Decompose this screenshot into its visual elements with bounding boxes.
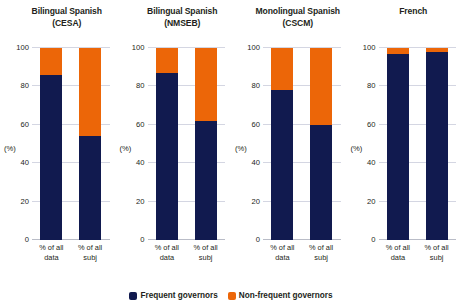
x-axis-labels: % of alldata% of allsubj — [32, 243, 110, 263]
y-axis-tick-label: 40 — [21, 158, 29, 167]
y-axis-tick-label: 100 — [132, 43, 145, 52]
x-axis-tick-label-line1: % of all — [39, 243, 63, 252]
stacked-bar-chart-figure: Bilingual Spanish(CESA)(%)020406080100% … — [0, 0, 462, 308]
legend-item[interactable]: Frequent governors — [129, 291, 217, 300]
x-axis-tick-label-line2: subj — [417, 253, 456, 263]
legend-label: Non-frequent governors — [239, 291, 333, 300]
panel-title-line1: Monolingual Spanish — [255, 6, 340, 16]
bar-segment-non-frequent[interactable] — [310, 48, 332, 125]
chart-panel: Bilingual Spanish(CESA)(%)020406080100% … — [0, 0, 116, 280]
stacked-bar[interactable] — [40, 48, 62, 240]
y-axis-tick-label: 0 — [25, 235, 29, 244]
y-axis-tick-label: 20 — [21, 196, 29, 205]
y-axis-tick-label: 0 — [256, 235, 260, 244]
x-axis-tick-label-line1: % of all — [155, 243, 179, 252]
stacked-bar[interactable] — [195, 48, 217, 240]
bar-segment-non-frequent[interactable] — [40, 48, 62, 75]
x-axis-tick-label: % of allsubj — [417, 243, 456, 263]
x-axis-tick-label-line2: subj — [71, 253, 110, 263]
bar-segment-frequent[interactable] — [387, 54, 409, 240]
panel-title-line1: Bilingual Spanish — [147, 6, 217, 16]
bar-segment-frequent[interactable] — [156, 73, 178, 240]
stacked-bar[interactable] — [271, 48, 293, 240]
x-axis-tick-label-line1: % of all — [386, 243, 410, 252]
bar-segment-non-frequent[interactable] — [156, 48, 178, 73]
bar-group — [32, 48, 110, 240]
panel-title-line1: Bilingual Spanish — [32, 6, 102, 16]
x-axis-tick-label-line1: % of all — [309, 243, 333, 252]
y-axis-tick-label: 40 — [367, 158, 375, 167]
panel-title-line1: French — [399, 6, 427, 16]
panel-title: Bilingual Spanish(NMSEB) — [116, 6, 232, 29]
panel-title-line2: (NMSEB) — [134, 18, 232, 30]
x-axis-labels: % of alldata% of allsubj — [263, 243, 341, 263]
plot-area: 020406080100 — [263, 48, 341, 240]
legend-swatch-icon — [228, 292, 236, 300]
x-axis-tick-label: % of alldata — [379, 243, 418, 263]
bar-segment-frequent[interactable] — [426, 52, 448, 240]
stacked-bar[interactable] — [426, 48, 448, 240]
bar-group — [148, 48, 226, 240]
y-axis-tick-label: 100 — [363, 43, 376, 52]
panel-title: Bilingual Spanish(CESA) — [0, 6, 116, 29]
y-axis-tick-label: 80 — [136, 81, 144, 90]
x-axis-tick-label-line2: subj — [186, 253, 225, 263]
y-axis-tick-label: 20 — [367, 196, 375, 205]
legend-item[interactable]: Non-frequent governors — [228, 291, 333, 300]
x-axis-tick-label: % of alldata — [32, 243, 71, 263]
bar-segment-non-frequent[interactable] — [271, 48, 293, 90]
panel-title: Monolingual Spanish(CSCM) — [231, 6, 347, 29]
x-axis-tick-label-line1: % of all — [425, 243, 449, 252]
stacked-bar[interactable] — [310, 48, 332, 240]
stacked-bar[interactable] — [79, 48, 101, 240]
y-axis-tick-label: 80 — [252, 81, 260, 90]
x-axis-tick-label: % of allsubj — [186, 243, 225, 263]
y-axis-label: (%) — [235, 144, 247, 153]
panel-title: French — [347, 6, 462, 18]
panel-row: Bilingual Spanish(CESA)(%)020406080100% … — [0, 0, 462, 280]
plot-area: 020406080100 — [379, 48, 457, 240]
x-axis-tick-label: % of alldata — [263, 243, 302, 263]
chart-panel: Monolingual Spanish(CSCM)(%)020406080100… — [231, 0, 347, 280]
y-axis-tick-label: 100 — [16, 43, 29, 52]
x-axis-tick-label-line2: subj — [302, 253, 341, 263]
x-axis-labels: % of alldata% of allsubj — [379, 243, 457, 263]
y-axis-tick-label: 0 — [140, 235, 144, 244]
y-axis-tick-label: 0 — [371, 235, 375, 244]
plot-area: 020406080100 — [32, 48, 110, 240]
y-axis-label: (%) — [120, 144, 132, 153]
x-axis-tick-label-line2: data — [148, 253, 187, 263]
bar-segment-frequent[interactable] — [79, 136, 101, 240]
bar-segment-frequent[interactable] — [310, 125, 332, 240]
y-axis-tick-label: 40 — [252, 158, 260, 167]
x-axis-tick-label-line2: data — [32, 253, 71, 263]
x-axis-labels: % of alldata% of allsubj — [148, 243, 226, 263]
bar-group — [263, 48, 341, 240]
chart-panel: Bilingual Spanish(NMSEB)(%)020406080100%… — [116, 0, 232, 280]
x-axis-tick-label-line2: data — [263, 253, 302, 263]
x-axis-tick-label: % of alldata — [148, 243, 187, 263]
panel-title-line2: (CSCM) — [249, 18, 347, 30]
x-axis-tick-label: % of allsubj — [71, 243, 110, 263]
stacked-bar[interactable] — [387, 48, 409, 240]
bar-segment-frequent[interactable] — [271, 90, 293, 240]
y-axis-tick-label: 20 — [252, 196, 260, 205]
x-axis-tick-label-line1: % of all — [78, 243, 102, 252]
y-axis-tick-label: 20 — [136, 196, 144, 205]
bar-segment-non-frequent[interactable] — [79, 48, 101, 136]
y-axis-label: (%) — [4, 144, 16, 153]
y-axis-tick-label: 40 — [136, 158, 144, 167]
y-axis-tick-label: 100 — [247, 43, 260, 52]
x-axis-tick-label-line1: % of all — [194, 243, 218, 252]
panel-title-line2: (CESA) — [18, 18, 116, 30]
legend-swatch-icon — [129, 292, 137, 300]
x-axis-tick-label: % of allsubj — [302, 243, 341, 263]
chart-panel: French(%)020406080100% of alldata% of al… — [347, 0, 462, 280]
bar-segment-frequent[interactable] — [40, 75, 62, 240]
plot-area: 020406080100 — [148, 48, 226, 240]
bar-segment-frequent[interactable] — [195, 121, 217, 240]
stacked-bar[interactable] — [156, 48, 178, 240]
bar-segment-non-frequent[interactable] — [195, 48, 217, 121]
y-axis-label: (%) — [351, 144, 363, 153]
chart-legend: Frequent governorsNon-frequent governors — [0, 291, 462, 300]
